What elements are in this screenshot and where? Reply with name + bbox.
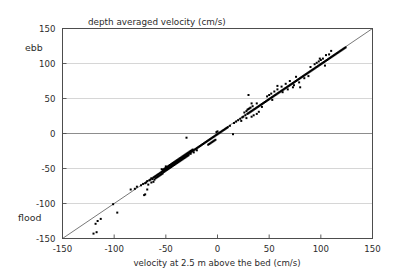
data-point	[140, 184, 142, 186]
data-point	[316, 62, 318, 64]
data-point	[251, 102, 253, 104]
data-point	[96, 231, 98, 233]
data-point	[330, 50, 332, 52]
data-point	[93, 233, 95, 235]
y-tick-label: -100	[36, 199, 56, 209]
data-point	[97, 220, 99, 222]
data-point	[112, 203, 114, 205]
data-point	[100, 218, 102, 220]
data-point	[250, 107, 252, 109]
data-point	[196, 149, 198, 151]
data-point	[233, 122, 235, 124]
x-tick-label: 50	[264, 244, 275, 254]
data-point	[232, 133, 234, 135]
data-point	[253, 114, 255, 116]
data-point	[217, 130, 219, 132]
data-point	[314, 63, 316, 65]
x-tick-label: -100	[104, 244, 124, 254]
data-point	[251, 116, 253, 118]
data-points-group	[93, 46, 347, 234]
data-point	[239, 118, 241, 120]
data-point	[227, 126, 229, 128]
data-point	[193, 151, 195, 153]
x-tick-label: 100	[313, 244, 329, 254]
data-point	[310, 66, 312, 68]
x-tick-label: -50	[159, 244, 173, 254]
data-point	[242, 116, 244, 118]
data-point	[150, 182, 152, 184]
y-tick-label: 50	[45, 94, 56, 104]
x-tick-label: 0	[215, 244, 220, 254]
data-point	[244, 114, 246, 116]
data-point	[285, 83, 287, 85]
data-point	[95, 223, 97, 225]
y-tick-label: -150	[36, 234, 56, 244]
data-point	[190, 153, 192, 155]
data-point	[214, 139, 216, 141]
data-point	[287, 88, 289, 90]
y-tick-labels: -150-100-50050100150	[36, 24, 56, 244]
data-point	[147, 184, 149, 186]
x-axis-label: velocity at 2.5 m above the bed (cm/s)	[133, 258, 300, 268]
data-point	[134, 188, 136, 190]
y-tick-label: 0	[50, 129, 55, 139]
data-point	[136, 186, 138, 188]
data-point	[116, 212, 118, 214]
data-point	[268, 94, 270, 96]
data-point	[318, 60, 320, 62]
y-tick-label: 100	[39, 59, 55, 69]
data-point	[276, 85, 278, 87]
data-point	[188, 154, 190, 156]
x-tick-label: 150	[364, 244, 380, 254]
x-tick-labels: -150-100-50050100150	[53, 244, 381, 254]
data-point	[261, 106, 263, 108]
data-point	[271, 99, 273, 101]
data-point	[237, 119, 239, 121]
data-point	[245, 117, 247, 119]
flood-annotation-label: flood	[18, 212, 41, 223]
data-point	[322, 58, 324, 60]
data-point	[256, 113, 258, 115]
x-tick-marks	[63, 235, 373, 239]
data-point	[243, 112, 245, 114]
data-point	[276, 88, 278, 90]
data-point	[266, 95, 268, 97]
data-point	[152, 181, 154, 183]
data-point	[281, 86, 283, 88]
data-point	[293, 84, 295, 86]
data-point	[282, 91, 284, 93]
ebb-annotation-label: ebb	[25, 42, 43, 53]
data-point	[186, 137, 188, 139]
data-point	[142, 183, 144, 185]
data-point	[146, 180, 148, 182]
data-point	[292, 86, 294, 88]
data-point	[307, 75, 309, 77]
data-point	[146, 189, 148, 191]
plot-canvas: -150-100-50050100150 -150-100-5005010015…	[0, 0, 393, 278]
data-point	[240, 120, 242, 122]
x-tick-label: -150	[53, 244, 73, 254]
data-point	[130, 189, 132, 191]
data-point	[299, 86, 301, 88]
data-point	[325, 54, 327, 56]
y-tick-label: -50	[41, 164, 55, 174]
data-point	[345, 46, 347, 48]
chart-title: depth averaged velocity (cm/s)	[88, 17, 226, 27]
data-point	[252, 105, 254, 107]
data-point	[229, 125, 231, 127]
data-point	[144, 193, 146, 195]
data-point	[298, 81, 300, 83]
data-point	[270, 93, 272, 95]
data-point	[256, 102, 258, 104]
scatter-plot-figure: -150-100-50050100150 -150-100-5005010015…	[0, 0, 393, 278]
data-point	[248, 94, 250, 96]
data-point	[319, 58, 321, 60]
data-point	[328, 53, 330, 55]
data-point	[324, 65, 326, 67]
data-point	[258, 111, 260, 113]
y-tick-label: 150	[39, 24, 55, 34]
data-point	[235, 121, 237, 123]
data-point	[289, 80, 291, 82]
data-point	[273, 91, 275, 93]
data-point	[303, 77, 305, 79]
